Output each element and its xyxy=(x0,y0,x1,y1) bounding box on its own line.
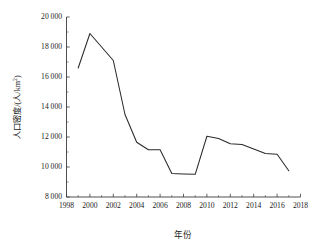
x-tick-label-2008: 2008 xyxy=(176,201,191,210)
x-tick-label-2010: 2010 xyxy=(199,201,214,210)
x-tick-label-2004: 2004 xyxy=(129,201,144,210)
series-line-population-density xyxy=(78,34,289,175)
population-density-line-chart: 8 00010 00012 00014 00016 00018 00020 00… xyxy=(0,0,318,246)
x-tick-label-2018: 2018 xyxy=(293,201,308,210)
y-tick-label-16000: 16 000 xyxy=(41,72,62,81)
axes-group xyxy=(67,17,301,197)
y-axis-tick-labels: 8 00010 00012 00014 00016 00018 00020 00… xyxy=(41,12,62,201)
x-tick-label-2014: 2014 xyxy=(246,201,261,210)
y-tick-label-20000: 20 000 xyxy=(41,12,62,21)
x-axis-tick-labels: 1998200020022004200620082010201220142016… xyxy=(59,201,308,210)
y-axis-title-text: 人口密度/(人/km2) xyxy=(12,75,22,139)
x-tick-label-2012: 2012 xyxy=(223,201,238,210)
y-axis-ticks xyxy=(67,17,70,197)
x-axis-title: 年份 xyxy=(174,229,192,240)
x-tick-label-2016: 2016 xyxy=(270,201,285,210)
y-tick-label-10000: 10 000 xyxy=(41,162,62,171)
y-tick-label-18000: 18 000 xyxy=(41,42,62,51)
chart-plot-area: 8 00010 00012 00014 00016 00018 00020 00… xyxy=(0,0,318,246)
y-tick-label-12000: 12 000 xyxy=(41,132,62,141)
y-tick-label-14000: 14 000 xyxy=(41,102,62,111)
y-axis-title: 人口密度/(人/km2) xyxy=(12,75,22,139)
x-tick-label-1998: 1998 xyxy=(59,201,74,210)
data-series-group xyxy=(78,34,289,175)
x-tick-label-2000: 2000 xyxy=(82,201,97,210)
x-tick-label-2002: 2002 xyxy=(106,201,121,210)
x-axis-ticks xyxy=(67,194,301,197)
x-tick-label-2006: 2006 xyxy=(153,201,168,210)
